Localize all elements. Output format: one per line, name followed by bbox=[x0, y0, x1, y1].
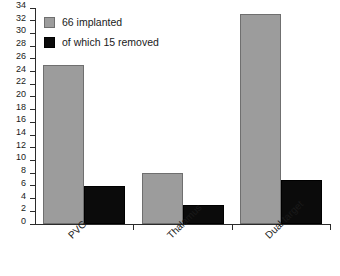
bar-thalamus-implanted bbox=[142, 173, 183, 224]
y-tick-label: 34 bbox=[4, 1, 26, 10]
legend-item-implanted: 66 implanted bbox=[44, 14, 159, 31]
y-tick-label: 26 bbox=[4, 52, 26, 61]
y-tick-label: 2 bbox=[4, 204, 26, 213]
y-tick-label: 18 bbox=[4, 103, 26, 112]
bar-chart: 0246810121416182022242628303234 PVGThala… bbox=[0, 0, 340, 276]
y-tick-label: 4 bbox=[4, 192, 26, 201]
y-tick-label: 28 bbox=[4, 39, 26, 48]
bar-pvg-implanted bbox=[43, 65, 84, 224]
y-tick-label: 20 bbox=[4, 90, 26, 99]
y-tick-label: 32 bbox=[4, 14, 26, 23]
x-axis-separator-end bbox=[330, 224, 331, 230]
x-axis-separator bbox=[133, 224, 134, 230]
legend-label-implanted: 66 implanted bbox=[62, 17, 122, 28]
y-tick-label: 14 bbox=[4, 128, 26, 137]
y-tick-label: 30 bbox=[4, 26, 26, 35]
y-tick-label: 0 bbox=[4, 217, 26, 226]
y-tick-label: 22 bbox=[4, 77, 26, 86]
bar-pvg-removed bbox=[84, 186, 125, 224]
y-tick-label: 16 bbox=[4, 115, 26, 124]
legend-label-removed: of which 15 removed bbox=[62, 37, 159, 48]
legend-swatch-black-icon bbox=[44, 37, 55, 48]
y-tick-label: 10 bbox=[4, 153, 26, 162]
bar-dual-target-implanted bbox=[240, 14, 281, 224]
legend-swatch-gray-icon bbox=[44, 17, 55, 28]
y-tick-label: 12 bbox=[4, 141, 26, 150]
y-tick-label: 6 bbox=[4, 179, 26, 188]
chart-legend: 66 implanted of which 15 removed bbox=[44, 14, 159, 54]
legend-item-removed: of which 15 removed bbox=[44, 34, 159, 51]
x-axis-separator bbox=[232, 224, 233, 230]
y-tick-label: 24 bbox=[4, 65, 26, 74]
y-tick-label: 8 bbox=[4, 166, 26, 175]
